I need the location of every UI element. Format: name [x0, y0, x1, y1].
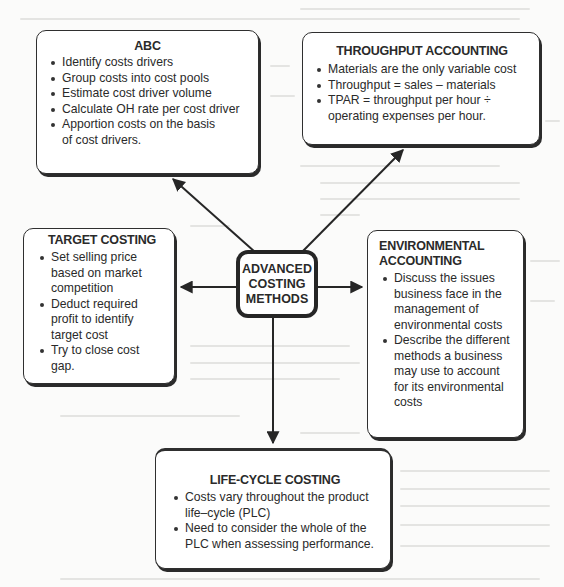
throughput-accounting-title: THROUGHPUT ACCOUNTING: [313, 44, 531, 59]
abc-title: ABC: [47, 39, 248, 54]
throughput-bullet: Materials are the only variable cost: [313, 62, 531, 78]
environmental-bullet: Describe the different methods a busines…: [379, 333, 517, 411]
environmental-bullet-list: Discuss the issues business face in the …: [379, 271, 517, 411]
abc-bullet: Group costs into cost pools: [47, 71, 248, 87]
abc-bullet: Calculate OH rate per cost driver: [47, 102, 248, 118]
life-cycle-costing-title: LIFE-CYCLE COSTING: [170, 473, 380, 488]
abc-bullet: Estimate cost driver volume: [47, 86, 248, 102]
throughput-bullet: TPAR = throughput per hour ÷ operating e…: [313, 93, 531, 124]
abc-bullet: Apportion costs on the basis of cost dri…: [47, 117, 248, 148]
environmental-accounting-box: ENVIRONMENTAL ACCOUNTING Discuss the iss…: [367, 230, 524, 438]
environmental-bullet: Discuss the issues business face in the …: [379, 271, 517, 333]
life-cycle-bullet: Need to consider the whole of the PLC wh…: [170, 521, 380, 552]
target-costing-box: TARGET COSTING Set selling price based o…: [23, 228, 175, 384]
target-costing-bullet: Try to close cost gap.: [36, 343, 166, 374]
target-costing-bullet: Deduct required profit to identify targe…: [36, 297, 166, 344]
abc-box: ABC Identify costs drivers Group costs i…: [36, 30, 259, 174]
environmental-accounting-title: ENVIRONMENTAL ACCOUNTING: [379, 239, 489, 269]
arrow-to-abc: [173, 179, 255, 252]
target-costing-title: TARGET COSTING: [48, 233, 166, 248]
throughput-accounting-box: THROUGHPUT ACCOUNTING Materials are the …: [302, 32, 540, 145]
advanced-costing-methods-node: ADVANCED COSTING METHODS: [236, 250, 318, 318]
life-cycle-bullet: Costs vary throughout the product life–c…: [170, 490, 380, 521]
abc-bullet-list: Identify costs drivers Group costs into …: [47, 55, 248, 148]
life-cycle-bullet-list: Costs vary throughout the product life–c…: [170, 490, 380, 552]
life-cycle-costing-box: LIFE-CYCLE COSTING Costs vary throughout…: [155, 448, 391, 569]
throughput-bullet-list: Materials are the only variable cost Thr…: [313, 62, 531, 124]
abc-bullet: Identify costs drivers: [47, 55, 248, 71]
throughput-bullet: Throughput = sales – materials: [313, 78, 531, 94]
target-costing-bullet-list: Set selling price based on market compet…: [36, 250, 166, 374]
target-costing-bullet: Set selling price based on market compet…: [36, 250, 166, 297]
